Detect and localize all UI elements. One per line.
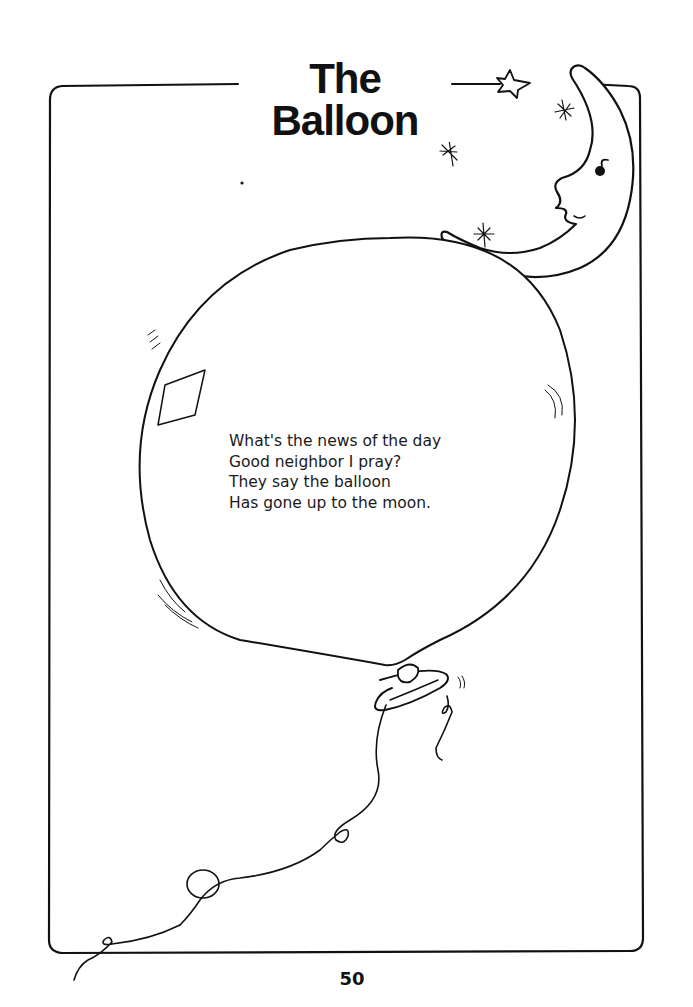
poem-line: Good neighbor I pray? — [229, 452, 441, 473]
poem-line: What's the news of the day — [229, 431, 441, 452]
page-number: 50 — [322, 968, 382, 989]
star-icon — [497, 70, 530, 98]
page-title: The Balloon — [240, 58, 450, 142]
balloon-knot — [375, 664, 465, 710]
poem-line: They say the balloon — [229, 472, 441, 493]
poem: What's the news of the day Good neighbor… — [229, 431, 441, 513]
balloon-string — [74, 696, 452, 980]
poem-line: Has gone up to the moon. — [229, 493, 441, 514]
